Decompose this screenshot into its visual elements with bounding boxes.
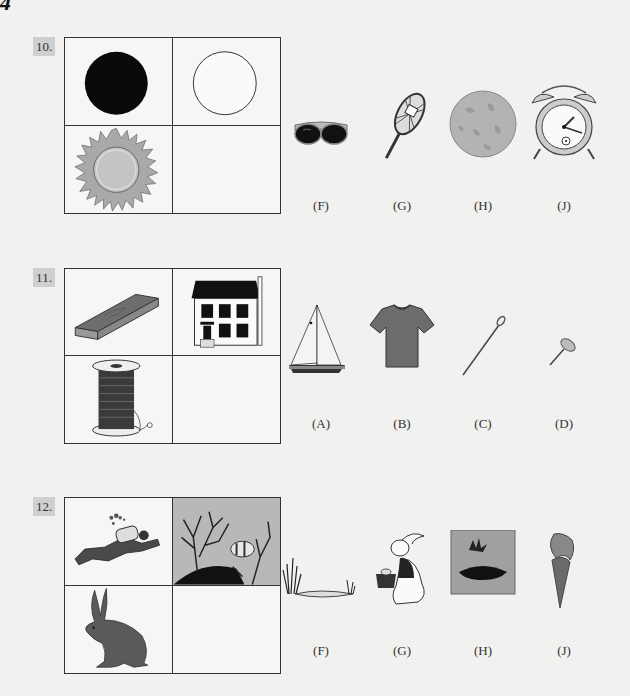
- t-shirt-icon: [362, 303, 442, 393]
- rabbit-with-basket-icon: [362, 530, 442, 620]
- grid-cell-bottom-left: [65, 356, 173, 443]
- answer-choice-g[interactable]: (G): [362, 85, 442, 215]
- grid-cell-top-left: [65, 269, 173, 356]
- pond-with-reeds-icon: [281, 530, 361, 620]
- analogy-grid: [64, 497, 281, 674]
- full-moon-icon: [443, 85, 523, 175]
- grid-cell-top-left: [65, 498, 173, 586]
- answer-choice-j[interactable]: (J): [524, 85, 604, 215]
- choice-label: (B): [362, 416, 442, 432]
- choice-label: (G): [362, 643, 442, 659]
- scuba-diver-icon: [65, 498, 172, 585]
- choice-label: (F): [281, 643, 361, 659]
- grid-cell-bottom-left: [65, 586, 173, 674]
- answer-choice-g[interactable]: (G): [362, 530, 442, 660]
- wooden-plank-icon: [65, 269, 172, 355]
- house-icon: [173, 269, 281, 355]
- choice-label: (G): [362, 198, 442, 214]
- answer-choice-b[interactable]: (B): [362, 303, 442, 433]
- hare-icon: [65, 586, 172, 674]
- sun-icon: [65, 126, 172, 214]
- alarm-clock-icon: [524, 85, 604, 175]
- answer-choice-f[interactable]: (F): [281, 530, 361, 660]
- snowshoe-icon: [362, 85, 442, 175]
- answer-choice-a[interactable]: (A): [281, 303, 361, 433]
- grid-cell-top-right: [173, 498, 281, 586]
- carrot-icon: [524, 530, 604, 620]
- white-circle-icon: [173, 38, 281, 125]
- answer-choice-h[interactable]: (H): [443, 85, 523, 215]
- grid-cell-bottom-right-blank: [173, 126, 281, 214]
- grid-cell-bottom-right-blank: [173, 356, 281, 443]
- grass-nest-icon: [443, 530, 523, 620]
- grid-cell-top-left: [65, 38, 173, 126]
- choice-label: (H): [443, 643, 523, 659]
- choice-label: (J): [524, 198, 604, 214]
- analogy-grid: [64, 268, 281, 444]
- page-number: 4: [0, 0, 14, 16]
- answer-choice-h[interactable]: (H): [443, 530, 523, 660]
- choice-label: (H): [443, 198, 523, 214]
- question-number: 12.: [33, 497, 55, 516]
- grid-cell-bottom-left: [65, 126, 173, 214]
- choice-label: (C): [443, 416, 523, 432]
- answer-choice-c[interactable]: (C): [443, 303, 523, 433]
- sewing-needle-icon: [443, 303, 523, 393]
- answer-choice-f[interactable]: (F): [281, 85, 361, 215]
- grid-cell-bottom-right-blank: [173, 586, 281, 674]
- sailboat-icon: [281, 303, 361, 393]
- question-number: 11.: [33, 268, 55, 287]
- answer-choice-d[interactable]: (D): [524, 303, 604, 433]
- thumbtack-icon: [524, 303, 604, 393]
- thread-spool-icon: [65, 356, 172, 443]
- coral-reef-clownfish-icon: [173, 498, 281, 585]
- sunglasses-icon: [281, 85, 361, 175]
- choice-label: (A): [281, 416, 361, 432]
- black-circle-icon: [65, 38, 172, 125]
- analogy-grid: [64, 37, 281, 214]
- choice-label: (J): [524, 643, 604, 659]
- choice-label: (D): [524, 416, 604, 432]
- choice-label: (F): [281, 198, 361, 214]
- answer-choice-j[interactable]: (J): [524, 530, 604, 660]
- grid-cell-top-right: [173, 269, 281, 356]
- question-number: 10.: [33, 37, 55, 56]
- grid-cell-top-right: [173, 38, 281, 126]
